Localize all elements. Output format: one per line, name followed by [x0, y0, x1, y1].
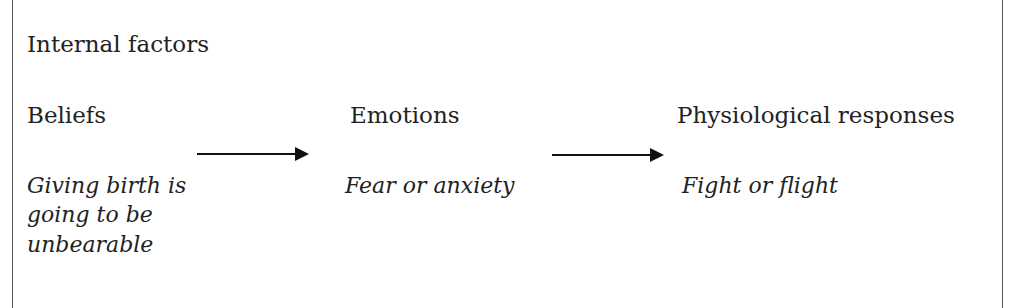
- node-beliefs-example-line-1: Giving birth is: [27, 171, 186, 200]
- node-beliefs-heading: Beliefs: [27, 101, 106, 130]
- node-beliefs-example-line-3: unbearable: [27, 230, 153, 259]
- node-emotions-heading: Emotions: [350, 101, 460, 130]
- arrow-right-icon: [552, 154, 662, 156]
- arrow-right-icon: [197, 153, 307, 155]
- node-emotions-example-line-1: Fear or anxiety: [345, 171, 514, 200]
- node-physiological-heading: Physiological responses: [677, 101, 955, 130]
- node-beliefs-example-line-2: going to be: [27, 200, 153, 229]
- node-physiological-example-line-1: Fight or flight: [682, 171, 838, 200]
- diagram-title: Internal factors: [27, 30, 209, 59]
